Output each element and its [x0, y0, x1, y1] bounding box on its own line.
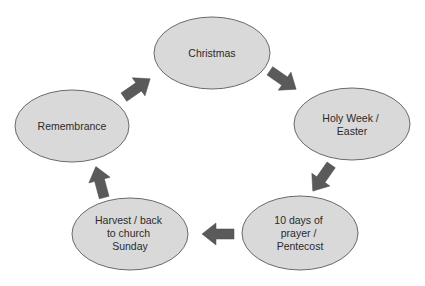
node-label-line: Harvest / back [95, 214, 163, 226]
node-ten-days-pentecost: 10 days of prayer / Pentecost [242, 196, 358, 270]
node-label-line: prayer / [281, 227, 317, 239]
arrow-pentecost-to-harvest [202, 223, 234, 245]
node-label: 10 days of prayer / Pentecost [274, 214, 325, 252]
node-ellipse [294, 88, 410, 160]
node-label-line: Holy Week / [322, 112, 378, 124]
node-label: Remembrance [38, 120, 107, 132]
node-label-line: Remembrance [38, 120, 107, 132]
node-label-line: Christmas [188, 47, 235, 59]
arrow-icon [304, 159, 340, 198]
node-label-line: 10 days of [274, 214, 323, 226]
arrow-icon [118, 70, 157, 106]
arrow-remembrance-to-christmas [118, 70, 157, 106]
node-label: Christmas [188, 47, 235, 59]
node-harvest-back-to-church: Harvest / back to church Sunday [72, 198, 188, 270]
node-holy-week-easter: Holy Week / Easter [294, 88, 410, 160]
node-label-line: Sunday [112, 240, 148, 252]
node-label-line: Easter [337, 125, 368, 137]
arrow-harvest-to-remembrance [85, 164, 115, 201]
node-remembrance: Remembrance [15, 90, 129, 162]
arrow-icon [202, 223, 234, 245]
arrow-holy-week-to-pentecost [304, 159, 340, 198]
arrow-christmas-to-holy-week [264, 62, 303, 98]
arrow-icon [264, 62, 303, 98]
cycle-diagram: Christmas Holy Week / Easter 10 days of … [0, 0, 425, 286]
node-label-line: to church [107, 227, 150, 239]
node-label-line: Pentecost [277, 240, 324, 252]
arrow-icon [85, 164, 115, 201]
node-christmas: Christmas [154, 17, 270, 89]
